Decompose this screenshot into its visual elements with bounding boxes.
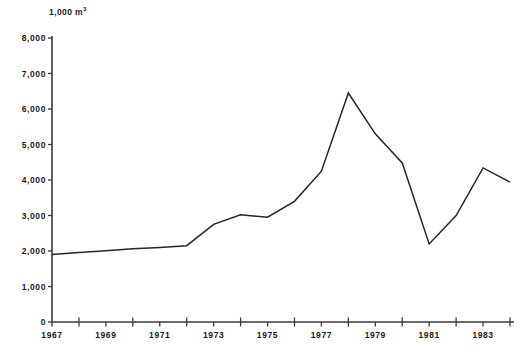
chart-canvas [0,0,523,354]
x-axis-tick-label: 1973 [203,330,224,340]
x-axis-tick-label: 1977 [311,330,332,340]
x-axis-tick-label: 1979 [365,330,386,340]
axis-lines [52,36,514,322]
x-axis-tick-label: 1971 [149,330,170,340]
data-series-line [52,93,510,255]
x-axis-tick-label: 1967 [41,330,62,340]
line-chart-figure: 1,000 m3 8,0007,0006,0005,0004,0003,0002… [0,0,523,354]
x-axis-tick-label: 1981 [419,330,440,340]
x-axis-tick-label: 1975 [257,330,278,340]
x-axis-tick-label: 1983 [472,330,493,340]
x-axis-tick-label: 1969 [95,330,116,340]
